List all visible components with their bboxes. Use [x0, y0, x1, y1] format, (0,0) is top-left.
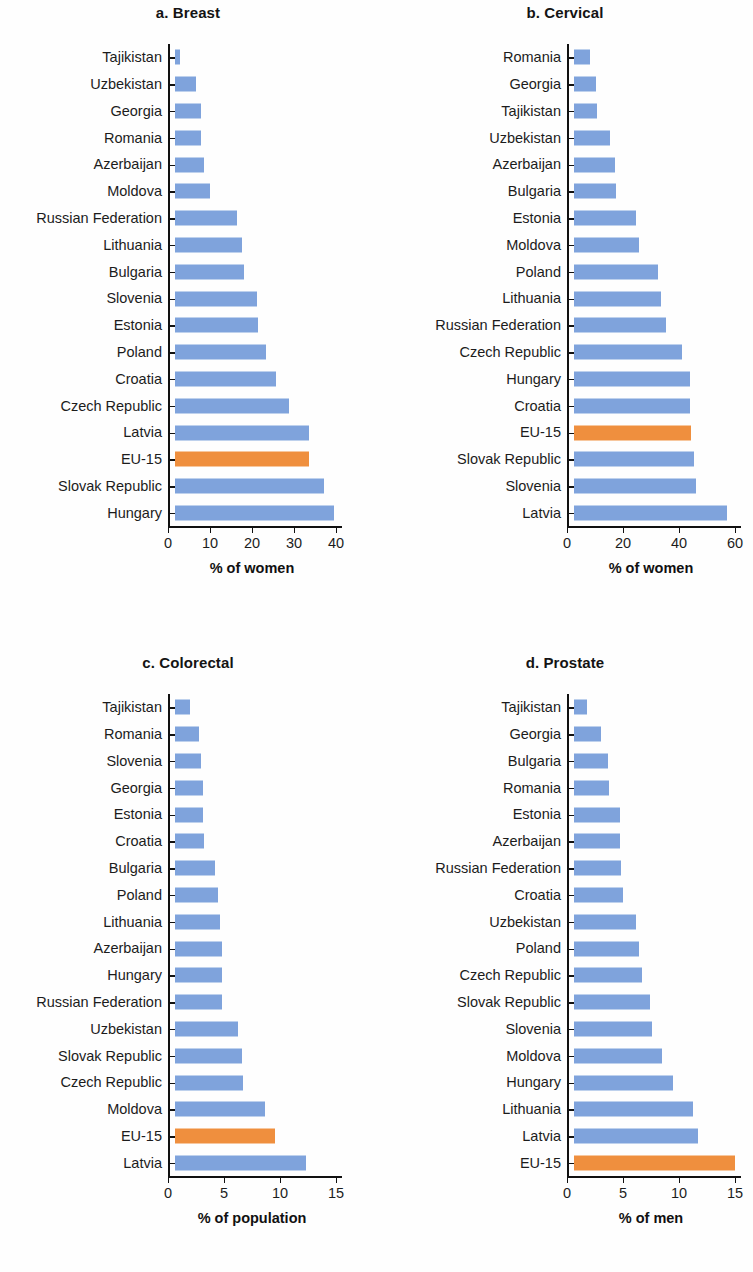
category-label: Latvia — [14, 1156, 169, 1171]
bar-highlight — [574, 1155, 735, 1170]
bar-row: Bulgaria — [14, 855, 175, 882]
panel-cervical: b. Cervical RomaniaGeorgiaTajikistanUzbe… — [377, 0, 753, 620]
bar — [574, 753, 608, 768]
bar — [175, 914, 220, 929]
bar-row: Estonia — [14, 801, 175, 828]
panel-title-breast: a. Breast — [0, 4, 432, 21]
x-axis-line — [168, 1176, 342, 1178]
bar-row: Croatia — [14, 828, 175, 855]
bar — [175, 371, 276, 386]
bar-row: Lithuania — [413, 1096, 574, 1123]
bar-row: EU-15 — [14, 1123, 175, 1150]
x-axis-tick-label: 15 — [727, 1185, 743, 1201]
category-label: Moldova — [413, 238, 568, 253]
bar-row: Croatia — [413, 392, 574, 419]
category-label: Slovak Republic — [14, 1049, 169, 1064]
category-label: Poland — [14, 345, 169, 360]
category-label: Lithuania — [413, 1102, 568, 1117]
bar-row: Poland — [413, 258, 574, 285]
category-label: Croatia — [413, 888, 568, 903]
bar-row: Uzbekistan — [413, 908, 574, 935]
category-label: Russian Federation — [413, 318, 568, 333]
bar-row: Poland — [413, 935, 574, 962]
x-axis-tick-label: 0 — [563, 1185, 571, 1201]
bar — [175, 753, 201, 768]
bar — [175, 425, 309, 440]
bar-row: Georgia — [413, 721, 574, 748]
bar-highlight — [175, 452, 309, 467]
category-label: Lithuania — [14, 238, 169, 253]
bar-row: Russian Federation — [14, 205, 175, 232]
bar-row: Bulgaria — [413, 178, 574, 205]
category-label: Estonia — [14, 318, 169, 333]
bar — [574, 318, 666, 333]
x-axis-line — [567, 1176, 741, 1178]
bar-row: Uzbekistan — [14, 71, 175, 98]
bar-highlight — [574, 425, 691, 440]
x-axis-tick — [735, 526, 736, 533]
category-label: Tajikistan — [413, 104, 568, 119]
category-label: Bulgaria — [413, 184, 568, 199]
x-axis-tick — [679, 1176, 680, 1183]
x-axis-tick — [623, 1176, 624, 1183]
x-axis-tick-label: 40 — [671, 535, 687, 551]
bar-row: EU-15 — [413, 1150, 574, 1177]
category-label: Slovenia — [14, 754, 169, 769]
bar — [175, 887, 218, 902]
x-axis-tick-label: 20 — [244, 535, 260, 551]
bar-row: Slovenia — [413, 473, 574, 500]
bar — [175, 318, 258, 333]
plot-area-breast: TajikistanUzbekistanGeorgiaRomaniaAzerba… — [14, 44, 175, 527]
x-axis-tick-label: 0 — [563, 535, 571, 551]
bar-row: Azerbaijan — [413, 151, 574, 178]
y-axis-spine — [567, 694, 569, 1176]
bar-row: Azerbaijan — [413, 828, 574, 855]
x-axis-prostate: 051015% of men — [567, 1176, 574, 1177]
bar-rows-breast: TajikistanUzbekistanGeorgiaRomaniaAzerba… — [14, 44, 175, 526]
bar-rows-colorectal: TajikistanRomaniaSloveniaGeorgiaEstoniaC… — [14, 694, 175, 1176]
x-axis-line — [168, 526, 342, 528]
category-label: Tajikistan — [413, 700, 568, 715]
category-label: Russian Federation — [413, 861, 568, 876]
category-label: Georgia — [413, 727, 568, 742]
bar-row: Latvia — [14, 419, 175, 446]
category-label: Poland — [413, 941, 568, 956]
bar — [574, 914, 636, 929]
bar-row: Estonia — [413, 205, 574, 232]
category-label: EU-15 — [413, 425, 568, 440]
bar-row: Tajikistan — [14, 44, 175, 71]
category-label: EU-15 — [413, 1156, 568, 1171]
bar-row: Tajikistan — [413, 694, 574, 721]
category-label: Poland — [14, 888, 169, 903]
bar-row: Georgia — [413, 71, 574, 98]
bar-row: Uzbekistan — [413, 124, 574, 151]
x-axis-tick — [294, 526, 295, 533]
bar-row: Estonia — [413, 801, 574, 828]
bar-row: Romania — [14, 721, 175, 748]
bar-row: Czech Republic — [14, 1069, 175, 1096]
x-axis-tick-label: 5 — [220, 1185, 228, 1201]
category-label: Tajikistan — [14, 700, 169, 715]
x-axis-tick — [210, 526, 211, 533]
x-axis-title: % of women — [609, 560, 694, 576]
bar — [175, 345, 266, 360]
x-axis-tick-label: 30 — [286, 535, 302, 551]
bar-row: Czech Republic — [14, 392, 175, 419]
bar-highlight — [175, 1129, 275, 1144]
category-label: Slovenia — [14, 291, 169, 306]
bar — [175, 130, 201, 145]
category-label: EU-15 — [14, 452, 169, 467]
bar — [175, 398, 289, 413]
bar — [574, 968, 642, 983]
category-label: Uzbekistan — [413, 131, 568, 146]
bar-row: EU-15 — [413, 419, 574, 446]
bar — [175, 700, 190, 715]
panel-breast: a. Breast TajikistanUzbekistanGeorgiaRom… — [0, 0, 376, 620]
bar — [175, 807, 203, 822]
bar-row: Tajikistan — [413, 98, 574, 125]
category-label: Hungary — [413, 372, 568, 387]
category-label: Slovenia — [413, 1022, 568, 1037]
y-axis-spine — [168, 694, 170, 1176]
bar — [175, 157, 204, 172]
x-axis-tick — [224, 1176, 225, 1183]
